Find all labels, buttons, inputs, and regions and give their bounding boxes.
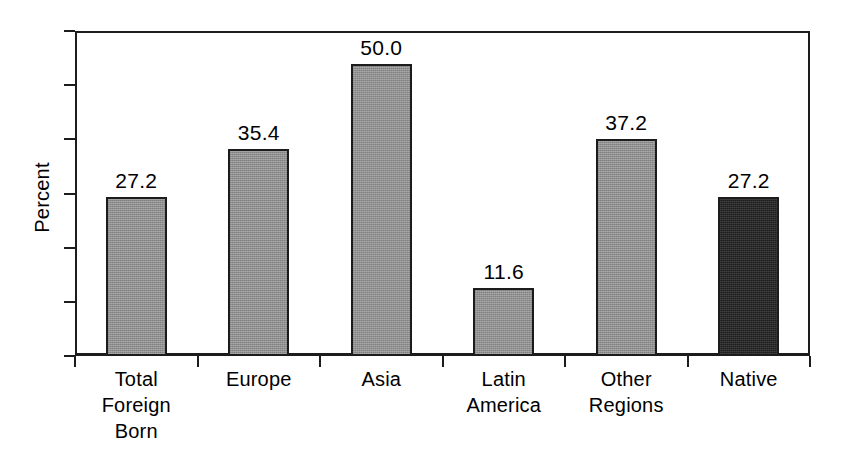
bar-value-label: 27.2 (696, 169, 801, 193)
x-axis-label-line: Other (565, 366, 688, 392)
x-axis-label-line: Europe (198, 366, 321, 392)
x-axis-category-label: Asia (320, 366, 443, 392)
bar-group: 11.6 (443, 31, 566, 356)
bar[interactable] (228, 149, 289, 356)
y-axis-tick (64, 193, 75, 195)
bar-group: 35.4 (198, 31, 321, 356)
x-axis-label-line: Born (75, 418, 198, 444)
bar[interactable] (473, 288, 534, 356)
bar-group: 50.0 (320, 31, 443, 356)
bar-value-label: 50.0 (329, 36, 434, 60)
x-axis-label-line: Total (75, 366, 198, 392)
x-axis-label-line: Native (688, 366, 811, 392)
bar-value-label: 37.2 (574, 111, 679, 135)
x-axis-category-label: Europe (198, 366, 321, 392)
x-axis-category-label: LatinAmerica (443, 366, 566, 418)
bar-value-label: 35.4 (206, 121, 311, 145)
x-axis-label-line: Regions (565, 392, 688, 418)
bar-value-label: 27.2 (84, 169, 189, 193)
bar[interactable] (106, 197, 167, 356)
y-axis-title: Percent (31, 138, 54, 258)
bar-group: 37.2 (565, 31, 688, 356)
bar-chart: Percent 27.235.450.011.637.227.2 TotalFo… (0, 0, 848, 464)
bar-group: 27.2 (75, 31, 198, 356)
bars-layer: 27.235.450.011.637.227.2 (75, 31, 810, 356)
y-axis-tick (64, 301, 75, 303)
y-axis-tick (64, 138, 75, 140)
x-axis-category-label: OtherRegions (565, 366, 688, 418)
bar[interactable] (718, 197, 779, 356)
x-axis-label-line: Asia (320, 366, 443, 392)
bar[interactable] (596, 139, 657, 356)
bar-group: 27.2 (688, 31, 811, 356)
x-axis-label-line: Latin (443, 366, 566, 392)
bar-value-label: 11.6 (451, 260, 556, 284)
x-axis-category-label: Native (688, 366, 811, 392)
x-axis-labels: TotalForeignBornEuropeAsiaLatinAmericaOt… (75, 366, 810, 462)
y-axis-tick (64, 84, 75, 86)
x-axis-label-line: America (443, 392, 566, 418)
y-axis-tick (64, 30, 75, 32)
bar[interactable] (351, 64, 412, 356)
x-axis-label-line: Foreign (75, 392, 198, 418)
y-axis-tick (64, 247, 75, 249)
x-axis-category-label: TotalForeignBorn (75, 366, 198, 444)
